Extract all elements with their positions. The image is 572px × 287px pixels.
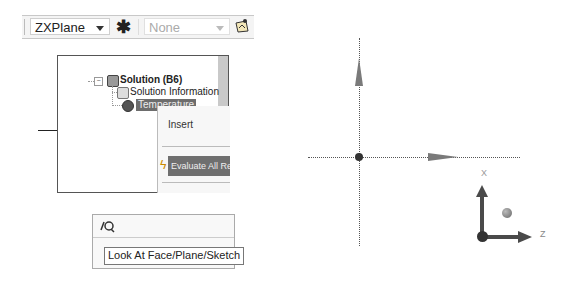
- horizontal-axis-line: [308, 157, 520, 158]
- tree-connector: [112, 86, 113, 106]
- context-menu: Insert ϟ Evaluate All Results: [157, 106, 230, 193]
- look-at-icon[interactable]: [99, 219, 115, 236]
- triad-x-label: X: [481, 168, 487, 178]
- toolbar-separator: [138, 19, 139, 35]
- triad-z-label: Z: [540, 229, 546, 239]
- look-at-toolbar: Look At Face/Plane/Sketch: [92, 214, 235, 269]
- info-icon: [117, 87, 129, 99]
- lightning-icon: ϟ: [160, 158, 166, 172]
- solution-icon: [107, 75, 119, 87]
- chevron-down-icon: [96, 26, 104, 31]
- triad-origin[interactable]: [477, 231, 488, 242]
- tree-item-solution[interactable]: Solution (B6): [120, 74, 182, 85]
- menu-divider: [162, 146, 230, 147]
- arrow-right-icon: [428, 153, 458, 161]
- triad-x-axis[interactable]: [480, 196, 484, 236]
- triad-z-arrow-icon[interactable]: [518, 231, 532, 243]
- chevron-down-icon: [216, 26, 224, 31]
- plane-select[interactable]: ZXPlane: [30, 18, 110, 35]
- sketch-select[interactable]: None: [144, 18, 230, 35]
- collapse-toggle[interactable]: −: [94, 77, 103, 86]
- tree-item-solution-information[interactable]: Solution Information: [130, 86, 219, 97]
- toolbar-divider: [93, 237, 234, 238]
- menu-item-insert[interactable]: Insert: [168, 119, 193, 130]
- menu-divider: [162, 182, 230, 183]
- sketch-toolbar: ZXPlane ✱ None: [22, 15, 254, 39]
- arrow-up-icon: [355, 58, 363, 86]
- toolbar-grip[interactable]: [24, 19, 27, 35]
- new-sketch-icon[interactable]: [234, 18, 250, 34]
- menu-item-evaluate-all-results[interactable]: Evaluate All Results: [168, 156, 230, 176]
- origin-point: [355, 153, 363, 161]
- plane-select-value: ZXPlane: [35, 20, 85, 35]
- tree-connector: [112, 105, 122, 106]
- new-plane-icon[interactable]: ✱: [116, 16, 131, 38]
- temperature-icon: [122, 100, 134, 112]
- sketch-select-value: None: [149, 20, 180, 35]
- tooltip: Look At Face/Plane/Sketch: [104, 247, 244, 265]
- triad-iso-sphere[interactable]: [502, 208, 512, 218]
- triad-z-axis[interactable]: [483, 235, 518, 239]
